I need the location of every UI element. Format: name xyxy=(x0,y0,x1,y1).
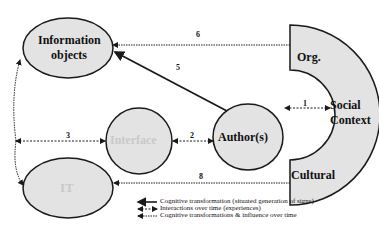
arrow-2-number: 2 xyxy=(190,131,194,140)
it-label: IT xyxy=(60,180,74,196)
information-objects-label: Information objects xyxy=(38,33,100,63)
arrow-3-number: 3 xyxy=(66,131,70,140)
information-objects-line1: Information xyxy=(38,33,100,48)
cultural-label: Cultural xyxy=(291,168,335,183)
authors-label: Author(s) xyxy=(218,130,268,145)
context-label: Context xyxy=(330,113,371,128)
legend-dotted-text: Cognitive transformations & influence ov… xyxy=(160,211,297,219)
diagram: Information objects Interface Author(s) … xyxy=(0,0,379,231)
arrow-6-number: 6 xyxy=(196,30,200,39)
social-label: Social xyxy=(330,98,361,113)
information-objects-line2: objects xyxy=(38,48,100,63)
arrow-1-number: 1 xyxy=(303,99,307,108)
org-label: Org. xyxy=(297,50,321,65)
interface-label: Interface xyxy=(110,133,157,148)
arrow-8-number: 8 xyxy=(199,172,203,181)
arrow-5-number: 5 xyxy=(176,63,180,72)
